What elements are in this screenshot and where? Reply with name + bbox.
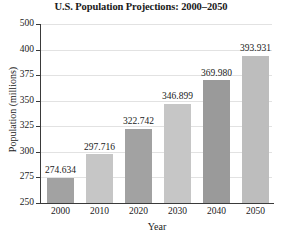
bar[interactable]: 393.931: [242, 56, 269, 203]
gridline: [41, 177, 272, 178]
y-tick-label: 375: [20, 70, 34, 80]
bar[interactable]: 322.742: [125, 129, 152, 203]
bar[interactable]: 297.716: [86, 154, 113, 203]
gridline: [41, 126, 272, 127]
y-tick-mark: [36, 152, 41, 153]
y-tick-mark: [36, 203, 41, 204]
bar-value-label: 369.980: [201, 69, 232, 79]
y-tick-label: 325: [20, 122, 34, 132]
bar-value-label: 274.634: [45, 166, 76, 176]
y-tick-label: 350: [20, 96, 34, 106]
bar-value-label: 297.716: [84, 143, 115, 153]
chart-title: U.S. Population Projections: 2000–2050: [0, 1, 282, 12]
x-axis-title: Year: [40, 221, 274, 232]
y-tick-label: 300: [20, 147, 34, 157]
x-tick-label: 2030: [168, 207, 187, 217]
x-tick-label: 2020: [129, 207, 148, 217]
gridline: [41, 24, 272, 25]
x-tick-label: 2010: [90, 207, 109, 217]
gridline: [41, 152, 272, 153]
y-tick-mark: [36, 101, 41, 102]
x-tick-label: 2000: [51, 207, 70, 217]
y-tick-label: 500: [20, 19, 34, 29]
y-tick-mark: [36, 50, 41, 51]
bar[interactable]: 369.980: [203, 80, 230, 203]
y-axis-line: [40, 24, 41, 203]
gridline: [41, 50, 272, 51]
y-tick-label: 275: [20, 173, 34, 183]
y-tick-label: 250: [20, 198, 34, 208]
bar[interactable]: 346.899: [164, 104, 191, 203]
x-axis-line: [40, 203, 274, 204]
y-tick-mark: [36, 126, 41, 127]
gridline: [41, 101, 272, 102]
bar-value-label: 393.931: [240, 44, 271, 54]
y-axis-title: Population (millions): [7, 45, 18, 175]
x-tick-label: 2050: [246, 207, 265, 217]
y-tick-mark: [36, 24, 41, 25]
chart-figure: U.S. Population Projections: 2000–2050 P…: [0, 0, 282, 242]
y-tick-mark: [36, 75, 41, 76]
y-tick-mark: [36, 177, 41, 178]
bar-value-label: 322.742: [123, 117, 154, 127]
gridline: [41, 75, 272, 76]
x-tick-label: 2040: [207, 207, 226, 217]
plot-area: 250275300325350375400500 274.634297.7163…: [40, 24, 274, 203]
y-tick-label: 400: [20, 45, 34, 55]
bar-value-label: 346.899: [162, 92, 193, 102]
bar[interactable]: 274.634: [47, 178, 74, 203]
